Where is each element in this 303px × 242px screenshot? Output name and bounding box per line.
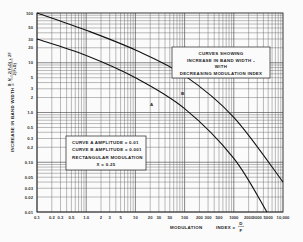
x-tick-label: 0.1: [34, 215, 40, 220]
y-tick-label: 0.3: [27, 136, 33, 141]
legend-top-line4: DECREASING MODULATION INDEX: [180, 71, 263, 76]
x-tick-label: 200: [196, 215, 204, 220]
y-frac-num: B_M - 2(F+D) + 2F: [8, 52, 12, 86]
x-tick-label: 0.2: [49, 215, 55, 220]
y-tick-label: 20: [28, 45, 33, 50]
y-tick-label: 10: [28, 60, 33, 65]
x-tick-label: 2: [100, 215, 103, 220]
y-tick-label: 2: [31, 95, 34, 100]
y-axis-label: INCREASE IN BAND WIDTH = B_M - 2(F+D) + …: [8, 52, 18, 152]
x-tick-label: 20: [148, 215, 153, 220]
y-tick-label: 100: [26, 11, 34, 16]
x-tick-label: 3000: [253, 215, 263, 220]
x-tick-label: 3: [109, 215, 112, 220]
x-tick-label: 500: [215, 215, 223, 220]
legend-top-line2: INCREASE IN BAND WIDTH ₁: [187, 58, 255, 63]
x-axis-ticks: 0.10.20.30.51.02351020305010020030050010…: [34, 215, 290, 220]
x-tick-label: 10,000: [277, 215, 290, 220]
legend-bottom-line3: RECTANGULAR MODULATION: [72, 155, 143, 160]
y-tick-label: 0.03: [25, 186, 34, 191]
curve-a-label: A: [150, 102, 154, 107]
legend-bottom-line2: CURVE B AMPLITUDE = 0.001: [72, 147, 142, 152]
y-tick-label: 0.05: [25, 175, 34, 180]
y-frac-den: 2(F+D): [13, 63, 17, 75]
x-tick-label: 300: [205, 215, 213, 220]
x-frac-den: F: [240, 228, 243, 233]
y-tick-label: 0.2: [27, 145, 33, 150]
x-label-right: INDEX =: [216, 225, 235, 230]
band-width-chart: 100503020105321.00.50.30.20.100.050.030.…: [0, 0, 303, 242]
y-tick-label: 0.01: [25, 210, 34, 215]
plot-grid: [37, 13, 283, 212]
x-tick-label: 5: [119, 215, 122, 220]
x-tick-label: 100: [181, 215, 189, 220]
legend-curve-amplitudes: CURVE A AMPLITUDE = 0.01 CURVE B AMPLITU…: [66, 136, 146, 170]
x-tick-label: 5000: [264, 215, 274, 220]
x-tick-label: 0.5: [68, 215, 74, 220]
y-tick-label: 3: [31, 86, 34, 91]
y-tick-label: 5: [31, 75, 34, 80]
x-label-left: MODULATION: [170, 225, 202, 230]
y-tick-label: 30: [28, 37, 33, 42]
legend-top-line3: WITH: [215, 64, 227, 69]
y-tick-label: 0.10: [25, 160, 34, 165]
y-tick-label: 0.5: [27, 125, 33, 130]
y-label-text: INCREASE IN BAND WIDTH =: [10, 83, 15, 152]
legend-bottom-line4: X = 0.25: [97, 162, 116, 167]
x-tick-label: 10: [133, 215, 138, 220]
legend-bottom-line1: CURVE A AMPLITUDE = 0.01: [72, 140, 139, 145]
x-tick-label: 1.0: [83, 215, 89, 220]
y-tick-label: 50: [28, 25, 33, 30]
x-tick-label: 50: [167, 215, 172, 220]
x-frac-num: D: [239, 221, 242, 226]
legend-top-line1: CURVES SHOWING: [198, 51, 243, 56]
x-tick-label: 0.3: [58, 215, 64, 220]
x-axis-label: MODULATION INDEX = D F: [170, 221, 244, 233]
x-tick-label: 30: [157, 215, 162, 220]
curve-b-label: B: [181, 91, 184, 96]
legend-curves-showing: CURVES SHOWING INCREASE IN BAND WIDTH ₁ …: [172, 47, 270, 78]
y-tick-label: 0.02: [25, 195, 34, 200]
y-axis-ticks: 100503020105321.00.50.30.20.100.050.030.…: [25, 11, 34, 215]
x-tick-label: 1000: [229, 215, 239, 220]
y-tick-label: 1.0: [27, 110, 33, 115]
